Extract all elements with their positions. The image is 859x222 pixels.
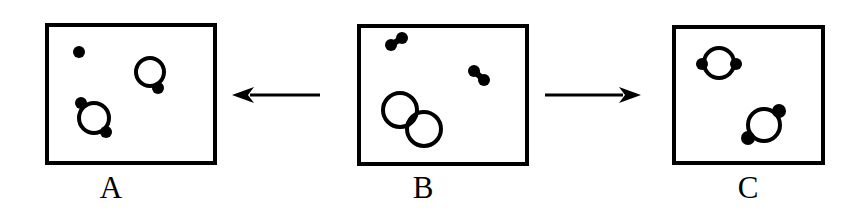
panel-A-border <box>47 25 215 163</box>
panel-A-ring-with-two-dots-dot-upper-left <box>75 97 87 109</box>
panel-C-ring-with-horizontal-dots-dot-right <box>730 58 742 70</box>
panel-A-ring-with-two-dots-dot-lower-right <box>100 126 112 138</box>
figure-root: ABC <box>0 0 859 222</box>
panel-A <box>21 0 241 189</box>
panel-B-free-dimer-upper-left-dot-a <box>385 39 397 51</box>
arrow-b-to-a <box>216 79 336 111</box>
arrow-b-to-c <box>529 79 657 111</box>
panel-C <box>648 1 849 189</box>
panel-label-C: C <box>728 172 768 203</box>
panel-B <box>333 0 553 190</box>
panel-label-A: A <box>91 172 131 203</box>
panel-B-free-dimer-upper-left-dot-b <box>396 32 408 44</box>
panel-A-free-monomer-dot <box>73 46 85 58</box>
panel-C-ring-with-diagonal-dots-dot-lower-left <box>741 131 755 145</box>
panel-C-ring-with-horizontal-dots-dot-left <box>696 58 708 70</box>
panel-label-B: B <box>403 172 443 203</box>
panel-B-free-dimer-right-dot-b <box>478 74 490 86</box>
panel-A-ring-with-one-dot-dot-lower-right <box>152 82 164 94</box>
panel-B-free-dimer-right-dot-a <box>468 65 480 77</box>
panel-B-border <box>359 26 527 164</box>
panel-C-ring-with-diagonal-dots-dot-upper-right <box>772 104 786 118</box>
